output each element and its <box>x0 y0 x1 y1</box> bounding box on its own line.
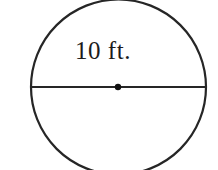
center-point-dot <box>115 84 121 90</box>
geometry-figure-canvas: 10 ft. <box>0 0 218 170</box>
diameter-measure-text: 10 ft. <box>75 38 131 63</box>
diameter-measure-label: 10 ft. <box>0 38 218 63</box>
circle-diagram-svg <box>0 0 218 170</box>
